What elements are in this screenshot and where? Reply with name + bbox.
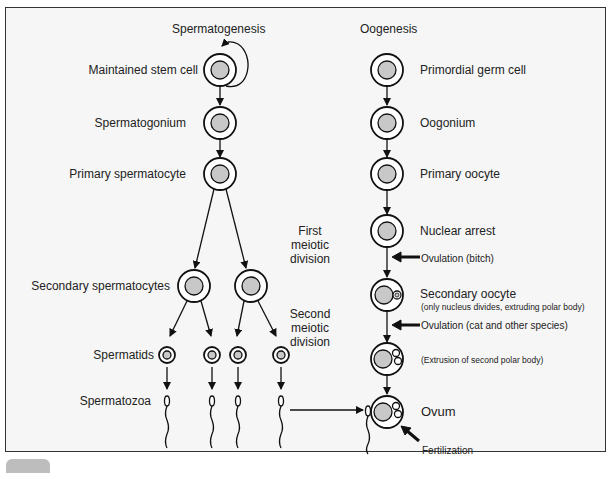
label-secondary-oocyte: Secondary oocyte [420, 287, 516, 301]
label-primary-spermatocyte: Primary spermatocyte [69, 167, 186, 181]
cell-primary-spermatocyte [204, 158, 236, 190]
cell-maintained-stem [204, 54, 236, 86]
spermatozoon-2 [210, 396, 215, 448]
cell-nuclear-arrest [371, 215, 403, 247]
cell-spermatogonium [204, 107, 236, 139]
label-primordial-germ-cell: Primordial germ cell [420, 63, 526, 77]
label-spermatids: Spermatids [93, 348, 154, 362]
cell-primordial-germ [371, 54, 403, 86]
label-ovulation-cat: Ovulation (cat and other species) [421, 319, 568, 333]
cell-secondary-spermatocyte-1 [178, 270, 210, 302]
label-ovulation-bitch: Ovulation (bitch) [421, 252, 494, 266]
label-secondary-spermatocytes: Secondary spermatocytes [31, 279, 170, 293]
spermatid-4 [273, 347, 289, 363]
label-fertilization: Fertilization [422, 444, 473, 458]
label-second-meiotic-division: Second meiotic division [282, 307, 338, 349]
label-primary-oocyte: Primary oocyte [420, 167, 500, 181]
label-nuclear-arrest: Nuclear arrest [420, 224, 495, 238]
label-maintained-stem-cell: Maintained stem cell [89, 63, 198, 77]
cell-extrusion-second-polar [371, 343, 403, 375]
spermatid-2 [204, 347, 220, 363]
label-first-meiotic-division: First meiotic division [282, 224, 338, 266]
label-spermatozoa: Spermatozoa [80, 394, 151, 408]
cell-secondary-oocyte [371, 279, 403, 311]
spermatozoon-fertilizing [366, 406, 371, 454]
label-ovum: Ovum [421, 405, 456, 419]
label-secondary-oocyte-note: (only nucleus divides, extruding polar b… [421, 300, 584, 314]
title-oogenesis: Oogenesis [360, 22, 417, 36]
spermatid-3 [230, 347, 246, 363]
cell-ovum [371, 396, 403, 428]
label-extrusion-second-polar: (Extrusion of second polar body) [421, 353, 543, 367]
label-oogonium: Oogonium [420, 116, 475, 130]
cell-primary-oocyte [371, 158, 403, 190]
spermatozoon-3 [236, 396, 241, 448]
spermatozoon-1 [165, 396, 170, 448]
cell-secondary-spermatocyte-2 [235, 270, 267, 302]
label-spermatogonium: Spermatogonium [95, 116, 186, 130]
cell-oogonium [371, 107, 403, 139]
spermatid-1 [159, 347, 175, 363]
spermatozoon-4 [279, 396, 284, 448]
title-spermatogenesis: Spermatogenesis [172, 22, 265, 36]
